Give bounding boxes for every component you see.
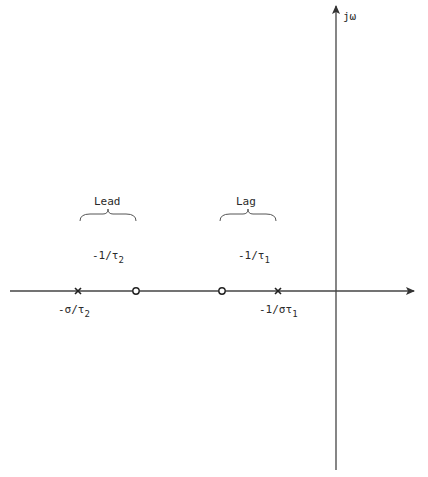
lag-pole-label: -1/στ1 — [259, 303, 298, 319]
lag-zero-label: -1/τ1 — [238, 249, 270, 265]
lead-zero-label: -1/τ2 — [92, 249, 124, 265]
lag-brace — [220, 209, 276, 221]
pole-zero-diagram: jω Lead -1/τ2 Lag -1/τ1 -σ/τ2 -1/στ1 — [0, 0, 428, 477]
lag-zero-marker — [219, 288, 225, 294]
lead-label: Lead — [94, 195, 121, 208]
lead-brace — [80, 209, 136, 221]
lead-pole-label: -σ/τ2 — [58, 303, 90, 319]
imaginary-axis-label: jω — [343, 10, 357, 23]
lead-zero-marker — [133, 288, 139, 294]
lag-label: Lag — [236, 195, 256, 208]
